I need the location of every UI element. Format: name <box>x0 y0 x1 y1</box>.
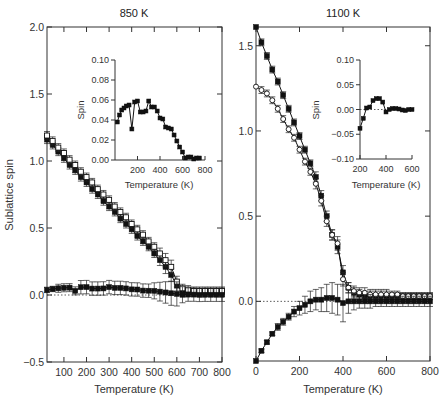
data-point <box>130 127 134 131</box>
data-point <box>361 116 365 120</box>
data-point <box>197 156 201 160</box>
data-point <box>163 290 168 295</box>
data-point <box>175 139 179 143</box>
data-point <box>400 299 405 304</box>
data-point <box>308 161 313 166</box>
figure: 850 K Temperature (K) Sublattice spin 10… <box>0 0 445 402</box>
data-point <box>124 286 129 291</box>
data-point <box>174 291 179 296</box>
data-point <box>208 292 213 297</box>
data-point <box>254 84 259 89</box>
data-point <box>302 302 307 307</box>
data-point <box>61 150 66 155</box>
data-point <box>84 285 89 290</box>
x-tick-label: 800 <box>421 365 439 377</box>
data-point <box>73 163 78 168</box>
data-point <box>214 292 219 297</box>
data-point <box>297 306 302 311</box>
data-point <box>118 209 123 214</box>
data-point <box>169 127 173 131</box>
data-point <box>152 251 157 256</box>
data-point <box>56 145 61 150</box>
x-tick-label: 200 <box>78 366 96 378</box>
inset-x-tick-label: 400 <box>152 165 167 175</box>
data-point <box>67 157 72 162</box>
data-point <box>286 106 291 111</box>
inset-x-tick-label: 600 <box>404 164 419 174</box>
x-tick-label: 300 <box>100 366 118 378</box>
y-axis-label: Sublattice spin <box>3 159 15 231</box>
data-point <box>422 299 427 304</box>
data-point <box>169 291 174 296</box>
data-point <box>146 288 151 293</box>
data-point <box>129 287 134 292</box>
panel-title-850k: 850 K <box>120 7 149 19</box>
inset-x-label-right: Temperature (K) <box>352 179 421 190</box>
y-tick-label: 0.0 <box>29 289 44 301</box>
data-point <box>147 99 151 103</box>
data-point <box>115 120 119 124</box>
x-tick-label: 600 <box>168 366 186 378</box>
data-point <box>281 117 286 122</box>
data-point <box>118 113 122 117</box>
data-point <box>341 301 346 306</box>
inset-y-tick-label: 0.06 <box>91 95 109 105</box>
inset-x-label-left: Temperature (K) <box>125 179 194 190</box>
data-point <box>118 216 123 221</box>
data-point <box>346 299 351 304</box>
inset-x-tick-label: 600 <box>175 165 190 175</box>
y-tick-label: −0.5 <box>23 356 44 368</box>
data-point <box>275 79 280 84</box>
data-point <box>78 169 83 174</box>
data-point <box>335 297 340 302</box>
panel-850k: 850 K Temperature (K) Sublattice spin 10… <box>3 7 231 395</box>
inset-plot-left: 2004006008000.000.020.040.060.080.10 <box>91 55 212 175</box>
inset-y-label-left: Spin <box>75 100 86 119</box>
x-tick-label: 100 <box>55 366 73 378</box>
data-point <box>373 299 378 304</box>
data-point <box>144 109 148 113</box>
data-point <box>275 106 280 111</box>
data-point <box>362 299 367 304</box>
data-point <box>351 299 356 304</box>
data-point <box>281 93 286 98</box>
data-point <box>191 292 196 297</box>
y-tick-label: 2.0 <box>29 21 44 33</box>
data-point <box>428 299 433 304</box>
data-point <box>73 288 78 293</box>
main-plot-right: 02004006008000.00.51.01.5 <box>238 25 439 378</box>
inset-x-tick-label: 800 <box>197 165 212 175</box>
inset-y-tick-label: 0.00 <box>91 155 109 165</box>
inset-y-label-right: Spin <box>310 100 321 119</box>
data-point <box>146 239 151 244</box>
y-tick-label: 0.5 <box>238 210 253 222</box>
data-point <box>84 175 89 180</box>
x-axis-label-left: Temperature (K) <box>94 383 173 395</box>
panel-title-1100k: 1100 K <box>326 7 361 19</box>
x-tick-label: 500 <box>145 366 163 378</box>
x-tick-label: 600 <box>378 365 396 377</box>
data-point <box>45 133 50 138</box>
data-point <box>155 109 159 113</box>
x-tick-label: 400 <box>123 366 141 378</box>
data-point <box>335 241 340 246</box>
data-point <box>90 180 95 185</box>
data-point <box>286 127 291 132</box>
y-tick-label: 1.0 <box>29 155 44 167</box>
data-point <box>67 285 72 290</box>
data-point <box>78 285 83 290</box>
data-point <box>56 286 61 291</box>
data-point <box>50 286 55 291</box>
data-point <box>410 108 414 112</box>
data-point <box>157 251 162 256</box>
data-point <box>308 299 313 304</box>
data-point <box>330 295 335 300</box>
data-point <box>152 288 157 293</box>
data-point <box>259 348 264 353</box>
data-point <box>118 285 123 290</box>
data-point <box>186 292 191 297</box>
data-point <box>50 138 55 143</box>
inset-y-tick-label: −0.10 <box>331 154 354 164</box>
data-point <box>95 187 100 192</box>
data-point <box>302 159 307 164</box>
